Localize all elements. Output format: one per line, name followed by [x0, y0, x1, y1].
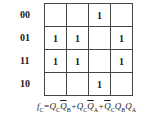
- kmap-row: 1: [45, 4, 133, 27]
- kmap-cell: [67, 4, 89, 27]
- kmap-cell: 1: [45, 27, 67, 50]
- term-3: QCQBQA: [104, 101, 136, 111]
- row-label-10: 10: [20, 72, 42, 95]
- kmap-cell: [89, 27, 111, 50]
- kmap-cell: [45, 4, 67, 27]
- kmap-cell: 1: [111, 50, 133, 73]
- kmap-row: 1 1 1: [45, 50, 133, 73]
- row-label-11: 11: [20, 49, 42, 72]
- term-1: QCQB: [50, 101, 71, 111]
- karnaugh-map: 1 1 1 1 1 1 1 1: [44, 3, 133, 96]
- kmap-row: 1 1 1: [45, 27, 133, 50]
- boolean-formula: fC=QCQB+QCQA+QCQBQA: [37, 101, 136, 113]
- kmap-cell: 1: [67, 50, 89, 73]
- kmap-cell: [45, 73, 67, 96]
- row-labels: 00 01 11 10: [20, 3, 42, 95]
- kmap-cell: [67, 73, 89, 96]
- kmap-cell: 1: [89, 4, 111, 27]
- kmap-cell: [111, 73, 133, 96]
- term-2: QCQA: [77, 101, 98, 111]
- row-label-00: 00: [20, 3, 42, 26]
- kmap-cell: [89, 50, 111, 73]
- kmap-cell: 1: [89, 73, 111, 96]
- kmap-cell: 1: [67, 27, 89, 50]
- kmap-row: 1: [45, 73, 133, 96]
- row-label-01: 01: [20, 26, 42, 49]
- kmap-cell: 1: [111, 27, 133, 50]
- kmap-cell: 1: [45, 50, 67, 73]
- kmap-cell: [111, 4, 133, 27]
